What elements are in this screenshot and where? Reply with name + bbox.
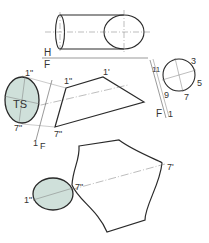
label-circle-7: 7 <box>184 92 189 102</box>
label-fold-f-right: F <box>156 108 162 119</box>
label-circle-9: 9 <box>164 90 169 100</box>
label-fold-1-right: 1 <box>168 109 173 119</box>
label-7pp-bottom: 7" <box>75 182 83 192</box>
label-true-size: TS <box>13 98 27 110</box>
technical-drawing: H F 3 5 7 9 11 F 1 1" 1' 7" 1 F TS 1" 7"… <box>0 0 209 243</box>
label-1pp-top: 1" <box>25 68 33 78</box>
cylinder-centerlines <box>45 10 150 54</box>
label-fold-h: H <box>44 47 51 58</box>
true-size-section-bottom <box>33 178 73 210</box>
label-circle-3: 3 <box>191 56 196 66</box>
label-1pp-bottom: 1" <box>24 195 32 205</box>
label-1pp-mid: 1" <box>64 76 72 86</box>
label-7pp-left: 7" <box>14 123 22 133</box>
label-circle-11: 11 <box>152 65 161 74</box>
label-7pp-mid: 7" <box>54 129 62 139</box>
trapezoid-centerline <box>28 85 128 108</box>
label-circle-5: 5 <box>197 78 202 88</box>
label-1p-mid: 1' <box>103 67 110 77</box>
fold-line-1-f-left <box>36 80 52 140</box>
development-curve <box>72 140 162 232</box>
label-7p-bottom: 7' <box>167 162 174 172</box>
label-fold-f-left: F <box>40 141 46 151</box>
label-fold-f-top: F <box>44 59 50 70</box>
label-fold-1-left: 1 <box>33 138 38 148</box>
